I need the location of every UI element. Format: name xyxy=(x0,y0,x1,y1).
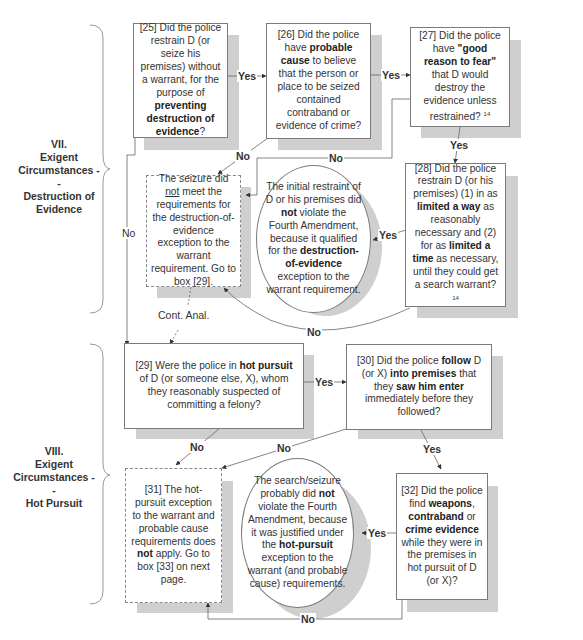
edge-label-cont-anal: Cont. Anal. xyxy=(157,309,210,321)
box-30: [30] Did the police follow D (or X) into… xyxy=(346,344,492,430)
edge-label-b30-no: No xyxy=(276,442,292,454)
fail-destruction-box: The seizure did not meet the requirement… xyxy=(146,175,241,287)
ok-hotpursuit-text: The search/seizure probably did not viol… xyxy=(247,475,348,591)
edge-label-b27-no: No xyxy=(328,152,344,164)
box-28: [28] Did the police restrain D (or his p… xyxy=(405,163,506,307)
edge-label-b25-no: No xyxy=(121,227,136,239)
edge-label-b32-yes: Yes xyxy=(367,527,387,539)
box-27-text: [27] Did the police have "good reason to… xyxy=(415,30,505,123)
box-31-text: [31] The hot-pursuit exception to the wa… xyxy=(130,484,217,587)
fail-destruction-text: The seizure did not meet the requirement… xyxy=(151,173,236,289)
section-label-line: Hot Pursuit xyxy=(12,497,96,510)
section-label-line: VIII. xyxy=(12,445,96,458)
box-32: [32] Did the police find weapons, contra… xyxy=(396,473,488,600)
section-label-line: Evidence xyxy=(18,203,100,216)
section-label-line: VII. xyxy=(18,138,100,151)
section-label-line: Exigent xyxy=(18,151,100,164)
section-label-vii: VII. Exigent Circumstances -- Destructio… xyxy=(18,138,100,216)
edge-label-b28-yes: Yes xyxy=(378,229,398,241)
box-29: [29] Were the police in hot pursuit of D… xyxy=(124,343,304,429)
edge-label-b26-yes: Yes xyxy=(381,69,401,81)
section-label-line: Circumstances -- xyxy=(12,471,96,497)
box-26-text: [26] Did the police have probable cause … xyxy=(271,29,366,132)
edge-label-b25-yes: Yes xyxy=(237,70,257,82)
ok-destruction-oval: The initial restraint of D or his premis… xyxy=(256,165,371,313)
edge-label-b28-no: No xyxy=(306,326,322,338)
section-label-line: Exigent xyxy=(12,458,96,471)
box-25: [25] Did the police restrain D (or seize… xyxy=(133,23,228,138)
edge-label-b26-no: No xyxy=(235,150,251,162)
box-25-text: [25] Did the police restrain D (or seize… xyxy=(138,22,223,138)
section-label-viii: VIII. Exigent Circumstances -- Hot Pursu… xyxy=(12,445,96,510)
box-26: [26] Did the police have probable cause … xyxy=(266,23,371,139)
edge-label-b30-yes: Yes xyxy=(422,443,442,455)
box-27: [27] Did the police have "good reason to… xyxy=(410,27,510,127)
section-label-line: Circumstances -- xyxy=(18,164,100,190)
edge-label-b29-yes: Yes xyxy=(314,376,334,388)
box-31: [31] The hot-pursuit exception to the wa… xyxy=(125,468,222,603)
box-29-text: [29] Were the police in hot pursuit of D… xyxy=(133,360,295,412)
ok-hotpursuit-oval: The search/seizure probably did not viol… xyxy=(241,458,354,608)
ok-destruction-text: The initial restraint of D or his premis… xyxy=(265,181,362,297)
box-28-text: [28] Did the police restrain D (or his p… xyxy=(410,163,501,308)
box-30-text: [30] Did the police follow D (or X) into… xyxy=(355,355,483,420)
edge-label-b29-no: No xyxy=(189,441,205,453)
edge-label-b27-yes: Yes xyxy=(449,139,469,151)
section-label-line: Destruction of xyxy=(18,190,100,203)
box-32-text: [32] Did the police find weapons, contra… xyxy=(401,485,483,588)
edge-label-b32-no: No xyxy=(300,613,316,625)
